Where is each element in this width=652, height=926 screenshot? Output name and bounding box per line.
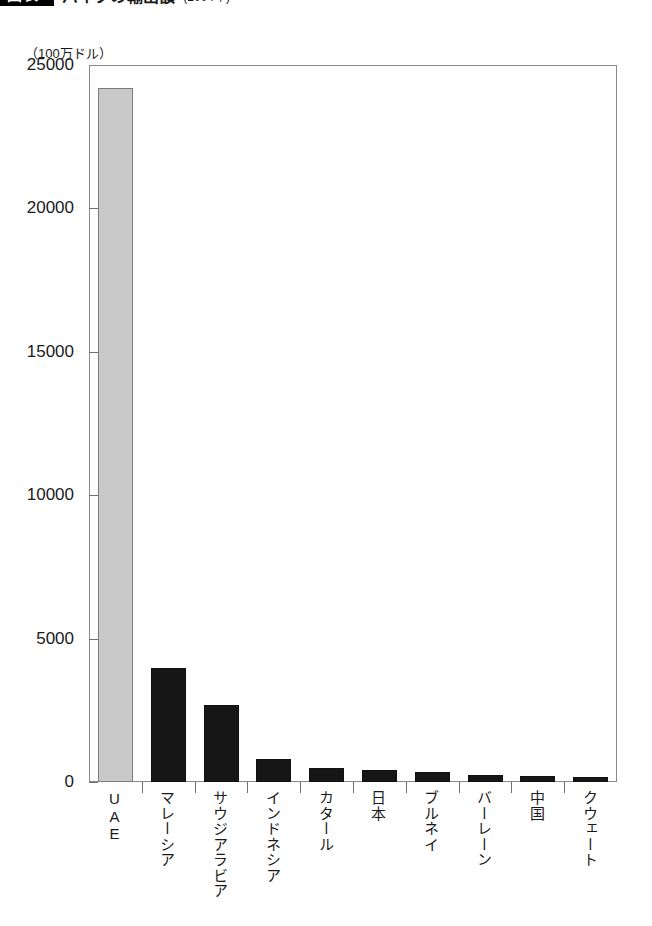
bar-8 — [520, 776, 555, 782]
bar-3 — [256, 759, 291, 782]
x-axis-category-label: UAE — [106, 790, 122, 843]
bar-1 — [151, 668, 186, 782]
y-axis-tick-label: 15000 — [27, 342, 74, 362]
bar-0 — [98, 88, 133, 782]
x-axis-category-label: 中国 — [529, 790, 545, 821]
x-axis-category-label: クウェート — [582, 790, 598, 868]
x-axis-category-label: サウジアラビア — [212, 790, 228, 899]
y-axis-tick-label: 10000 — [27, 485, 74, 505]
y-axis-tick-label: 5000 — [36, 629, 74, 649]
x-axis-tick-mark — [511, 782, 512, 793]
x-axis-tick-mark — [564, 782, 565, 793]
y-axis-tick-mark — [89, 639, 98, 640]
x-axis-category-label: カタール — [318, 790, 334, 852]
bar-9 — [573, 777, 608, 782]
x-axis-category-label: 日本 — [370, 790, 386, 821]
bar-7 — [468, 775, 503, 782]
x-axis-tick-mark — [406, 782, 407, 793]
x-axis-tick-mark — [142, 782, 143, 793]
bar-2 — [204, 705, 239, 782]
y-axis-tick-mark — [89, 495, 98, 496]
x-axis-category-label: バーレーン — [476, 790, 492, 868]
bar-5 — [362, 770, 397, 782]
bar-chart: 0500010000150002000025000 UAEマレーシアサウジアラビ… — [0, 0, 652, 926]
x-axis-labels: UAEマレーシアサウジアラビアインドネシアカタール日本ブルネイバーレーン中国クウ… — [89, 790, 617, 920]
bar-6 — [415, 772, 450, 782]
x-axis-category-label: インドネシア — [265, 790, 281, 883]
x-axis-category-label: マレーシア — [159, 790, 175, 868]
y-axis-tick-label: 25000 — [27, 55, 74, 75]
bar-4 — [309, 768, 344, 782]
x-axis-tick-mark — [247, 782, 248, 793]
bars-layer — [89, 65, 617, 782]
x-axis-tick-mark — [353, 782, 354, 793]
y-axis-tick-mark — [89, 782, 98, 783]
y-axis-tick-label: 20000 — [27, 198, 74, 218]
x-axis-tick-mark — [459, 782, 460, 793]
y-axis-tick-mark — [89, 352, 98, 353]
x-axis-tick-mark — [195, 782, 196, 793]
x-axis-tick-mark — [300, 782, 301, 793]
y-axis-tick-mark — [89, 208, 98, 209]
y-axis-labels: 0500010000150002000025000 — [0, 0, 74, 926]
y-axis-tick-label: 0 — [65, 772, 74, 792]
x-axis-category-label: ブルネイ — [423, 790, 439, 852]
